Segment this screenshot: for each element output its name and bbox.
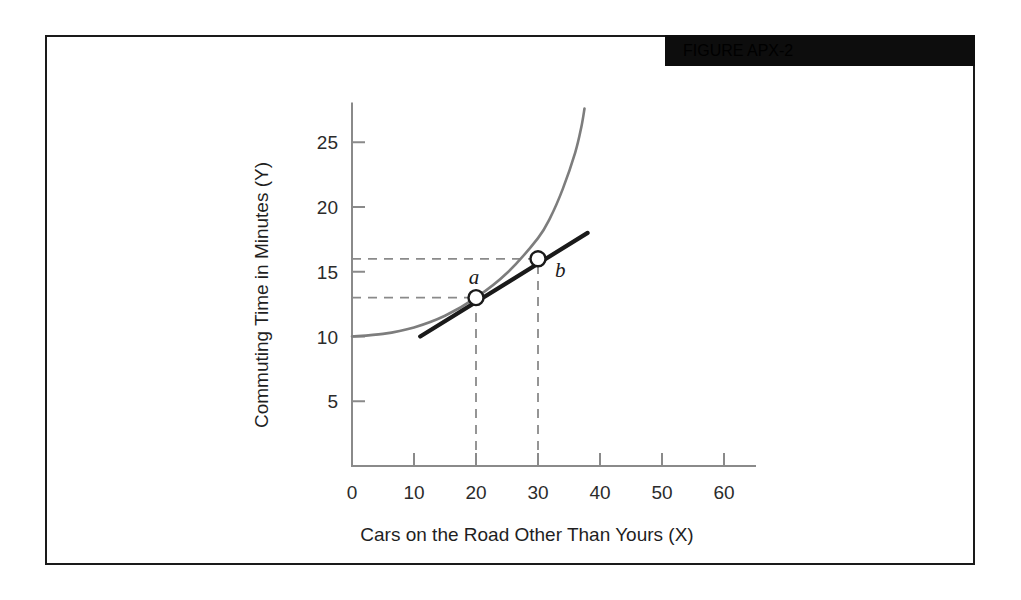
x-tick-label: 40 (589, 482, 610, 503)
chart-axes (352, 103, 755, 466)
x-tick-label: 50 (651, 482, 672, 503)
chart-plot-area: 510152025 0102030405060 ab Cars on the R… (0, 0, 1021, 600)
chart-svg: 510152025 0102030405060 ab Cars on the R… (0, 0, 1021, 600)
x-axis-title: Cars on the Road Other Than Yours (X) (360, 524, 693, 545)
y-tick-label: 15 (317, 262, 338, 283)
total-commuting-time-curve (352, 109, 585, 337)
data-point-label-b: b (555, 258, 566, 282)
x-axis-ticks (414, 453, 724, 466)
y-tick-label: 5 (327, 391, 338, 412)
x-tick-label: 60 (713, 482, 734, 503)
y-tick-label: 10 (317, 327, 338, 348)
secant-line-ab (420, 233, 587, 337)
x-tick-label: 10 (403, 482, 424, 503)
y-axis-ticks (352, 142, 365, 401)
data-point-marker-a (469, 290, 484, 305)
chart-guide-lines (352, 259, 538, 466)
y-axis-tick-labels: 510152025 (317, 132, 338, 412)
x-tick-label: 20 (465, 482, 486, 503)
x-tick-label: 30 (527, 482, 548, 503)
y-tick-label: 20 (317, 197, 338, 218)
x-tick-label: 0 (347, 482, 358, 503)
data-point-label-a: a (469, 265, 480, 289)
x-axis-tick-labels: 0102030405060 (347, 482, 735, 503)
y-axis-title: Commuting Time in Minutes (Y) (251, 162, 272, 428)
y-tick-label: 25 (317, 132, 338, 153)
figure-page: FIGURE APX-2 510152025 0102030405060 ab … (0, 0, 1021, 600)
data-point-marker-b (531, 251, 546, 266)
